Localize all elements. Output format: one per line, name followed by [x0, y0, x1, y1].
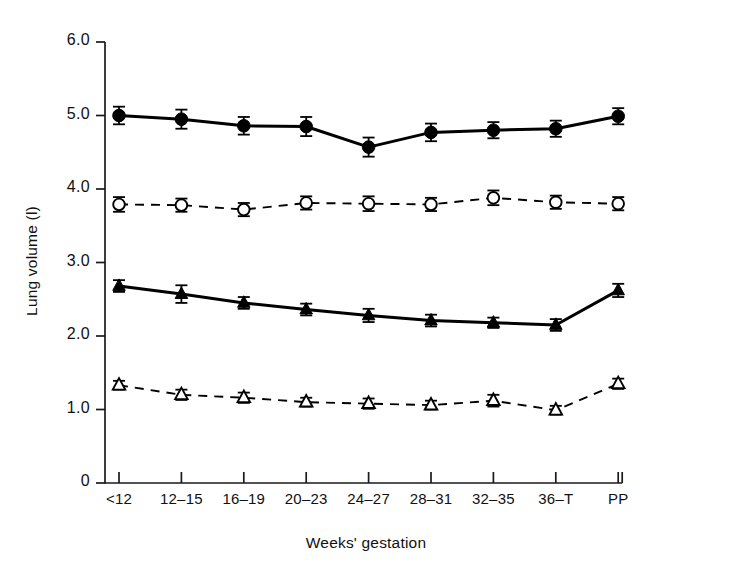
y-tick-label: 2.0: [34, 325, 90, 343]
data-point-open-circle: [113, 199, 125, 211]
data-point-filled-circle: [175, 113, 188, 126]
y-tick-label: 0: [34, 472, 90, 490]
data-point-open-circle: [488, 192, 500, 204]
data-point-open-circle: [176, 199, 188, 211]
lung-volume-chart-figure: Lung volume (l) 6.05.04.03.02.01.00 <121…: [0, 0, 732, 573]
data-point-open-triangle: [300, 395, 313, 407]
data-point-open-circle: [612, 198, 624, 210]
y-tick-label: 3.0: [34, 252, 90, 270]
series-open-triangle: [113, 377, 625, 415]
data-point-filled-circle: [113, 109, 126, 122]
y-tick-label: 6.0: [34, 31, 90, 49]
y-tick-label: 1.0: [34, 399, 90, 417]
x-tick-label: 20–23: [285, 490, 328, 507]
series-open-circle: [113, 190, 624, 216]
data-point-open-triangle: [425, 398, 438, 410]
data-point-filled-circle: [550, 122, 563, 135]
data-point-open-circle: [300, 197, 312, 209]
data-point-open-circle: [363, 198, 375, 210]
data-point-open-circle: [238, 204, 250, 216]
y-tick-label: 5.0: [34, 105, 90, 123]
axes-layer: [96, 42, 622, 484]
plot-area: [0, 0, 732, 573]
data-point-open-triangle: [113, 378, 126, 390]
data-point-open-circle: [550, 196, 562, 208]
x-tick-label: 32–35: [472, 490, 515, 507]
data-point-filled-triangle: [612, 283, 625, 295]
data-point-open-circle: [425, 199, 437, 211]
y-tick-label: 4.0: [34, 178, 90, 196]
x-tick-label: PP: [608, 490, 628, 507]
data-point-filled-circle: [300, 120, 313, 133]
data-point-filled-circle: [238, 119, 251, 132]
series-filled-triangle: [113, 279, 625, 331]
data-point-filled-circle: [487, 124, 500, 137]
x-tick-label: 24–27: [347, 490, 390, 507]
data-point-filled-circle: [425, 126, 438, 139]
x-tick-label: 12–15: [160, 490, 203, 507]
data-point-filled-circle: [612, 110, 625, 123]
x-tick-label: 36–T: [538, 490, 573, 507]
x-tick-label: <12: [106, 490, 132, 507]
x-tick-label: 28–31: [410, 490, 453, 507]
x-axis-title: Weeks' gestation: [0, 534, 732, 552]
series-filled-circle: [113, 107, 625, 157]
x-tick-label: 16–19: [222, 490, 265, 507]
series-layer: [113, 107, 625, 415]
data-point-filled-circle: [362, 141, 375, 154]
